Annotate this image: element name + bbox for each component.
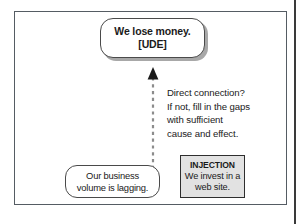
node-ude-label: We lose money. [UDE]	[114, 25, 190, 51]
page-edge-line	[294, 0, 296, 224]
node-ude[interactable]: We lose money. [UDE]	[100, 18, 205, 58]
dashed-arrow-icon	[140, 62, 166, 170]
node-injection-title: INJECTION	[190, 160, 235, 171]
node-cause[interactable]: Our business volume is lagging.	[65, 165, 160, 198]
node-cause-label: Our business volume is lagging.	[77, 170, 148, 193]
connector-cause-to-ude	[140, 62, 166, 170]
node-injection[interactable]: INJECTION We invest in a web site.	[180, 155, 245, 198]
arrowhead-up-icon	[148, 67, 159, 80]
annotation-text: Direct connection? If not, fill in the g…	[167, 86, 287, 140]
diagram-canvas: We lose money. [UDE] Direct connection? …	[0, 0, 307, 224]
node-injection-label: We invest in a web site.	[185, 171, 240, 193]
